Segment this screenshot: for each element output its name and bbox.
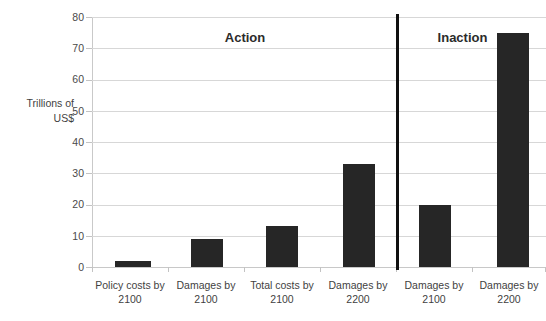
x-label-line-2: 2200: [320, 292, 396, 306]
x-label-line-1: Damages by: [480, 279, 539, 291]
x-label-line-1: Damages by: [177, 279, 236, 291]
x-label-line-2: 2100: [244, 292, 320, 306]
x-tick-5: [472, 267, 473, 272]
y-tick-label-50: 50: [56, 105, 84, 117]
x-label-line-1: Damages by: [405, 279, 464, 291]
x-label-total-costs-2100: Total costs by 2100: [244, 278, 320, 306]
gridline-70: [92, 48, 546, 49]
y-tick-label-30: 30: [56, 167, 84, 179]
bar-policy-costs-2100[interactable]: [115, 261, 151, 267]
y-tick-label-70: 70: [56, 42, 84, 54]
gridline-60: [92, 80, 546, 81]
x-tick-1: [168, 267, 169, 272]
action-inaction-divider: [396, 14, 399, 270]
x-tick-0: [92, 267, 93, 272]
gridline-0: [92, 267, 546, 268]
section-heading-action: Action: [175, 30, 315, 45]
y-tick-label-10: 10: [56, 230, 84, 242]
x-label-line-1: Policy costs by: [95, 279, 164, 291]
bar-total-costs-2100[interactable]: [266, 226, 298, 267]
x-tick-3: [320, 267, 321, 272]
gridline-10: [92, 236, 546, 237]
plot-area: [92, 17, 546, 267]
y-tick-label-60: 60: [56, 73, 84, 85]
gridline-20: [92, 205, 546, 206]
gridline-80: [92, 17, 546, 18]
x-label-policy-costs-2100: Policy costs by 2100: [92, 278, 168, 306]
x-label-damages-2100-inaction: Damages by 2100: [396, 278, 472, 306]
x-label-damages-2200-action: Damages by 2200: [320, 278, 396, 306]
bar-damages-2200-inaction[interactable]: [497, 33, 529, 267]
x-label-damages-2200-inaction: Damages by 2200: [472, 278, 546, 306]
bar-damages-2200-action[interactable]: [343, 164, 375, 267]
x-label-line-1: Damages by: [329, 279, 388, 291]
gridline-50: [92, 111, 546, 112]
gridline-40: [92, 142, 546, 143]
x-label-line-2: 2100: [396, 292, 472, 306]
section-heading-inaction: Inaction: [400, 30, 525, 45]
bar-damages-2100-action[interactable]: [191, 239, 223, 267]
x-label-line-2: 2200: [472, 292, 546, 306]
x-label-line-1: Total costs by: [250, 279, 314, 291]
bar-damages-2100-inaction[interactable]: [419, 205, 451, 268]
x-tick-2: [244, 267, 245, 272]
x-label-damages-2100-action: Damages by 2100: [168, 278, 244, 306]
x-label-line-2: 2100: [92, 292, 168, 306]
y-tick-label-40: 40: [56, 136, 84, 148]
gridline-30: [92, 173, 546, 174]
y-tick-label-20: 20: [56, 198, 84, 210]
y-tick-label-80: 80: [56, 11, 84, 23]
y-tick-label-0: 0: [56, 261, 84, 273]
x-label-line-2: 2100: [168, 292, 244, 306]
cropped-chart-title: [72, 0, 192, 3]
